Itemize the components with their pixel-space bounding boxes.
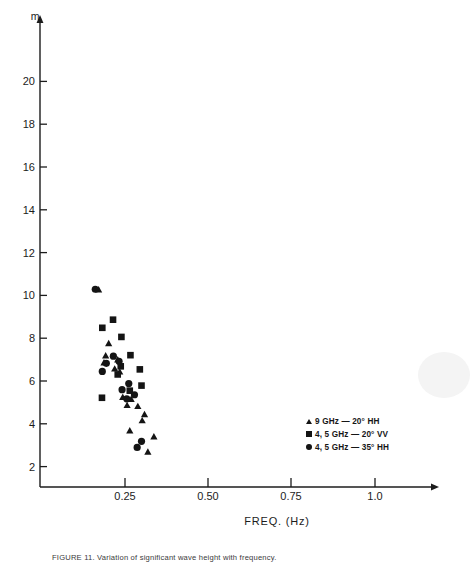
- data-point: [134, 444, 141, 451]
- triangle-marker-icon: [303, 419, 315, 424]
- square-marker-icon: [303, 431, 315, 436]
- data-point: [141, 411, 148, 417]
- data-point: [105, 340, 112, 346]
- y-tick-label: 10: [23, 289, 35, 301]
- figure-caption: FIGURE 11. Variation of significant wave…: [52, 553, 432, 566]
- x-tick-label: 0.75: [280, 490, 301, 502]
- x-tick-label: 1.0: [367, 490, 382, 502]
- y-axis-unit-label: m: [31, 10, 40, 22]
- data-point: [110, 353, 117, 360]
- legend-item: 9 GHz — 20° HH: [303, 415, 453, 427]
- x-axis-title: FREQ. (Hz): [244, 515, 309, 527]
- y-tick-label: 18: [23, 118, 35, 130]
- data-point: [126, 427, 133, 433]
- legend-item-label: 4, 5 GHz — 35° HH: [315, 443, 389, 452]
- data-point: [150, 433, 157, 439]
- data-point: [144, 448, 151, 454]
- legend-item-label: 4, 5 GHz — 20° VV: [315, 430, 388, 439]
- y-tick-label: 6: [29, 375, 35, 387]
- y-tick-label: 4: [29, 418, 35, 430]
- legend-item-label: 9 GHz — 20° HH: [315, 417, 380, 426]
- data-point: [124, 402, 131, 408]
- y-axis-ticks: [40, 81, 47, 466]
- circle-marker-icon: [303, 444, 315, 450]
- data-point: [125, 380, 132, 387]
- data-point: [110, 316, 117, 323]
- data-point: [138, 382, 145, 389]
- legend: 9 GHz — 20° HH 4, 5 GHz — 20° VV 4, 5 GH…: [303, 415, 453, 454]
- data-point: [127, 352, 134, 359]
- data-point: [99, 325, 106, 332]
- data-point: [114, 371, 121, 378]
- y-tick-label: 20: [23, 75, 35, 87]
- data-point: [138, 438, 145, 445]
- data-point: [99, 394, 106, 401]
- legend-item: 4, 5 GHz — 20° VV: [303, 428, 453, 440]
- x-tick-label: 0.25: [114, 490, 135, 502]
- y-tick-label: 16: [23, 161, 35, 173]
- data-point: [115, 358, 122, 365]
- data-point: [118, 334, 125, 341]
- data-point: [111, 365, 118, 371]
- data-point: [102, 352, 109, 358]
- data-point: [118, 386, 125, 393]
- data-point: [92, 286, 99, 293]
- data-point: [131, 391, 138, 398]
- y-tick-label: 2: [29, 461, 35, 473]
- y-tick-label: 14: [23, 204, 35, 216]
- data-point: [123, 395, 130, 402]
- data-point: [134, 403, 141, 409]
- x-tick-label: 0.50: [197, 490, 218, 502]
- data-point: [139, 417, 146, 423]
- x-axis-ticks: [125, 478, 375, 487]
- y-tick-label: 8: [29, 332, 35, 344]
- data-point: [137, 366, 144, 373]
- data-point: [99, 368, 106, 375]
- data-point: [103, 360, 110, 367]
- legend-item: 4, 5 GHz — 35° HH: [303, 441, 453, 453]
- data-points-layer: [92, 286, 158, 455]
- y-tick-label: 12: [23, 247, 35, 259]
